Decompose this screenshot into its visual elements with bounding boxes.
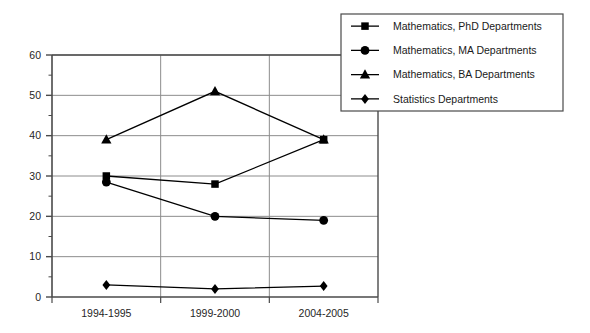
chart-canvas: 0102030405060 1994-19951999-20002004-200… [0, 0, 590, 333]
y-axis-tick-label: 30 [29, 170, 41, 182]
y-axis-tick-label: 20 [29, 210, 41, 222]
x-axis-tick-label: 2004-2005 [299, 307, 349, 319]
legend-item-label: Mathematics, BA Departments [393, 68, 535, 80]
legend: Mathematics, PhD DepartmentsMathematics,… [341, 14, 563, 111]
x-axis-tick-label: 1994-1995 [81, 307, 131, 319]
legend-item-label: Statistics Departments [393, 93, 498, 105]
y-axis-tick-label: 50 [29, 89, 41, 101]
legend-item-label: Mathematics, MA Departments [393, 44, 537, 56]
marker-square [211, 180, 219, 188]
y-axis-tick-label: 10 [29, 250, 41, 262]
marker-circle [211, 212, 220, 221]
marker-square [361, 22, 369, 30]
x-axis-tick-label: 1999-2000 [190, 307, 240, 319]
marker-circle [319, 216, 328, 225]
y-axis-tick-label: 0 [35, 291, 41, 303]
legend-item-label: Mathematics, PhD Departments [393, 20, 542, 32]
line-chart: 0102030405060 1994-19951999-20002004-200… [0, 0, 590, 333]
y-axis-tick-label: 60 [29, 49, 41, 61]
marker-circle [361, 46, 370, 55]
marker-circle [102, 178, 111, 187]
y-axis-tick-label: 40 [29, 129, 41, 141]
